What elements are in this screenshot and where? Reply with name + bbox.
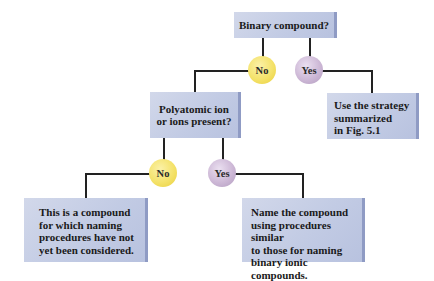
connector-yes-horizontal	[322, 70, 372, 72]
connector-yes2-down	[302, 173, 304, 198]
name-compound-outcome-box: Name the compound using procedures simil…	[242, 198, 365, 262]
binary-compound-question-box: Binary compound?	[234, 12, 337, 38]
connector-no2-down	[85, 173, 87, 198]
name-compound-outcome-text: Name the compound using procedures simil…	[251, 206, 348, 281]
binary-yes-node: Yes	[295, 56, 323, 84]
connector-no2-horizontal	[85, 173, 150, 175]
connector-mid-to-yes	[222, 138, 224, 160]
use-strategy-outcome-text: Use the strategy summarized in Fig. 5.1	[334, 99, 409, 136]
not-considered-outcome-box: This is a compound for which naming proc…	[24, 198, 148, 262]
binary-no-label: No	[256, 65, 269, 76]
connector-no-horizontal	[194, 70, 249, 72]
not-considered-outcome-text: This is a compound for which naming proc…	[39, 206, 134, 256]
connector-no-down	[194, 70, 196, 92]
connector-yes-down	[371, 70, 373, 93]
use-strategy-outcome-box: Use the strategy summarized in Fig. 5.1	[327, 93, 419, 139]
polyatomic-ion-question-box: Polyatomic ion or ions present?	[150, 92, 241, 138]
polyatomic-no-label: No	[157, 168, 170, 179]
binary-compound-question: Binary compound?	[239, 19, 329, 32]
polyatomic-yes-node: Yes	[208, 159, 236, 187]
connector-mid-to-no	[163, 138, 165, 160]
connector-top-to-yes	[309, 38, 311, 57]
binary-yes-label: Yes	[301, 65, 316, 76]
binary-no-node: No	[248, 56, 276, 84]
connector-yes2-horizontal	[235, 173, 303, 175]
polyatomic-yes-label: Yes	[214, 168, 229, 179]
polyatomic-ion-question: Polyatomic ion or ions present?	[157, 103, 232, 128]
connector-top-to-no	[262, 38, 264, 57]
polyatomic-no-node: No	[149, 159, 177, 187]
